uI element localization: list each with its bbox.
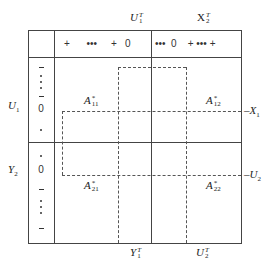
col-sym-dot (40, 129, 42, 131)
label-neg-u2: –U2 (244, 169, 261, 183)
col-sym-dot (40, 200, 42, 202)
label-x2-transpose: XT2 (197, 12, 210, 25)
dashed-vertical-u2 (186, 67, 187, 243)
col-sym-dot (40, 81, 42, 83)
col-sym-dot (40, 212, 42, 214)
header-row-left: + ••• + 0 (64, 39, 131, 49)
block-horizontal-divider (28, 142, 242, 143)
block-a12: A*12 (206, 95, 221, 108)
dashed-horizontal-u2 (62, 175, 241, 176)
header-row-divider (28, 57, 242, 58)
col-sym-dash (39, 96, 44, 97)
col-sym-dot (40, 155, 42, 157)
dashed-left-cap (62, 111, 63, 175)
label-neg-x1: –X1 (244, 105, 260, 119)
block-a11: A*11 (84, 95, 98, 108)
frame-top (28, 30, 242, 31)
label-y1-transpose: YT1 (130, 247, 141, 260)
block-a22: A*22 (206, 180, 221, 193)
col-sym-dot (40, 206, 42, 208)
dashed-horizontal-x1 (62, 111, 241, 112)
label-u1: U1 (8, 100, 19, 114)
col-sym-dot (40, 75, 42, 77)
frame-left (28, 30, 29, 244)
header-col-divider (54, 30, 55, 244)
col-sym-zero: 0 (35, 104, 47, 114)
dashed-top-cap (118, 67, 186, 68)
col-sym-dot (40, 87, 42, 89)
label-u2-transpose: UT2 (196, 247, 209, 260)
block-vertical-divider (151, 30, 152, 244)
block-a21: A*21 (84, 180, 99, 193)
col-sym-dash (39, 67, 44, 68)
label-u1-transpose: UT1 (130, 12, 143, 25)
dashed-vertical-y1 (118, 67, 119, 243)
header-row-right: ••• 0 + ••• + (155, 39, 215, 49)
frame-bottom (28, 243, 242, 244)
col-sym-dash (39, 228, 44, 229)
col-sym-dash (39, 189, 44, 190)
frame-right (241, 30, 242, 244)
label-y2: Y2 (8, 164, 18, 178)
col-sym-zero: 0 (35, 165, 47, 175)
